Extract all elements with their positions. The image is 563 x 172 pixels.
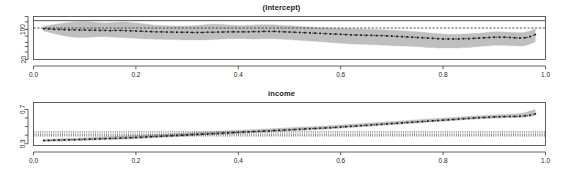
data-point xyxy=(427,37,429,39)
data-point xyxy=(258,130,260,132)
data-point xyxy=(468,118,470,120)
data-point xyxy=(304,32,306,34)
data-point xyxy=(58,139,60,141)
data-point xyxy=(504,116,506,118)
data-point xyxy=(345,34,347,36)
data-point xyxy=(350,125,352,127)
data-point xyxy=(243,131,245,133)
data-point xyxy=(253,131,255,133)
data-point xyxy=(381,123,383,125)
data-point xyxy=(248,131,250,133)
data-point xyxy=(529,114,531,116)
data-point xyxy=(273,130,275,132)
data-point xyxy=(447,38,449,40)
y-tick-label: 0.3 xyxy=(20,139,27,148)
data-point xyxy=(58,29,60,31)
x-tick-label: 0.6 xyxy=(336,157,345,164)
data-point xyxy=(125,30,127,32)
data-point xyxy=(227,31,229,33)
data-point xyxy=(53,28,55,30)
data-point xyxy=(140,136,142,138)
data-point xyxy=(130,30,132,32)
data-point xyxy=(150,136,152,138)
x-tick-label: 0.8 xyxy=(439,71,448,78)
data-point xyxy=(94,29,96,31)
data-point xyxy=(509,37,511,39)
data-point xyxy=(319,33,321,35)
data-point xyxy=(161,135,163,137)
data-point xyxy=(99,30,101,32)
data-point xyxy=(371,34,373,36)
x-tick-label: 0.4 xyxy=(234,157,243,164)
data-point xyxy=(396,36,398,38)
data-point xyxy=(191,32,193,34)
data-point xyxy=(519,115,521,117)
data-point xyxy=(483,37,485,39)
data-point xyxy=(99,138,101,140)
data-point xyxy=(48,139,50,141)
confidence-band xyxy=(44,109,536,141)
data-point xyxy=(89,29,91,31)
data-point xyxy=(130,137,132,139)
data-point xyxy=(258,31,260,33)
data-point xyxy=(253,31,255,33)
data-point xyxy=(120,137,122,139)
data-point xyxy=(278,129,280,131)
y-tick-label: 100 xyxy=(20,24,27,35)
x-tick-label: 1.0 xyxy=(541,71,550,78)
x-tick-label: 0.6 xyxy=(336,71,345,78)
data-point xyxy=(212,31,214,33)
data-point xyxy=(109,30,111,32)
data-point xyxy=(115,137,117,139)
data-point xyxy=(186,31,188,33)
data-point xyxy=(514,37,516,39)
plot-intercept: 0.00.20.40.60.81.010020 xyxy=(0,0,563,86)
data-point xyxy=(299,128,301,130)
data-point xyxy=(207,133,209,135)
data-point xyxy=(452,119,454,121)
data-point xyxy=(89,138,91,140)
data-point xyxy=(355,125,357,127)
data-point xyxy=(376,35,378,37)
data-point xyxy=(458,118,460,120)
panel-income: income 0.00.20.40.60.81.00.70.3 xyxy=(0,86,563,172)
data-point xyxy=(360,34,362,36)
data-point xyxy=(166,135,168,137)
data-point xyxy=(340,126,342,128)
data-point xyxy=(84,29,86,31)
data-point xyxy=(340,33,342,35)
data-point xyxy=(232,132,234,134)
x-tick-label: 1.0 xyxy=(541,157,550,164)
data-point xyxy=(161,31,163,33)
data-point xyxy=(294,31,296,33)
data-point xyxy=(68,139,70,141)
data-point xyxy=(156,31,158,33)
data-point xyxy=(237,131,239,133)
data-point xyxy=(458,38,460,40)
data-point xyxy=(135,30,137,32)
x-tick-label: 0.0 xyxy=(29,71,38,78)
quantile-regression-figure: (Intercept) 0.00.20.40.60.81.010020 inco… xyxy=(0,0,563,172)
data-point xyxy=(176,31,178,33)
data-point xyxy=(509,116,511,118)
data-point xyxy=(196,134,198,136)
data-point xyxy=(447,119,449,121)
data-point xyxy=(324,33,326,35)
x-tick-label: 0.2 xyxy=(131,157,140,164)
data-point xyxy=(79,29,81,31)
data-point xyxy=(493,116,495,118)
plot-income: 0.00.20.40.60.81.00.70.3 xyxy=(0,86,563,172)
data-point xyxy=(417,121,419,123)
data-point xyxy=(386,35,388,37)
data-point xyxy=(499,116,501,118)
confidence-band xyxy=(44,22,536,48)
x-tick-label: 0.8 xyxy=(439,157,448,164)
data-point xyxy=(294,129,296,131)
data-point xyxy=(227,132,229,134)
data-point xyxy=(396,122,398,124)
data-point xyxy=(202,133,204,135)
data-point xyxy=(125,137,127,139)
data-point xyxy=(212,133,214,135)
data-point xyxy=(524,115,526,117)
data-point xyxy=(473,38,475,40)
